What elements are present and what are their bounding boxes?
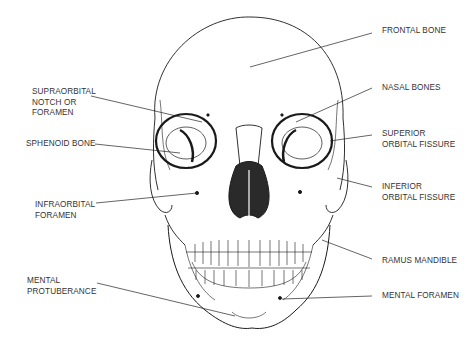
label-supraorbital-notch: SUPRAORBITAL NOTCH OR FORAMEN: [32, 87, 96, 119]
label-frontal-bone: FRONTAL BONE: [382, 26, 446, 37]
label-infraorbital-foramen: INFRAORBITAL FORAMEN: [35, 200, 95, 221]
label-line: ORBITAL FISSURE: [382, 140, 455, 151]
label-line: FORAMEN: [32, 108, 96, 119]
label-line: FRONTAL BONE: [382, 26, 446, 37]
label-line: INFERIOR: [382, 182, 455, 193]
label-inferior-orbital-fissure: INFERIOR ORBITAL FISSURE: [382, 182, 455, 203]
label-line: NASAL BONES: [382, 83, 441, 94]
label-line: FORAMEN: [35, 211, 95, 222]
label-mental-protuberance: MENTAL PROTUBERANCE: [27, 276, 96, 297]
label-mental-foramen: MENTAL FORAMEN: [382, 291, 459, 302]
label-line: PROTUBERANCE: [27, 287, 96, 298]
skull-diagram: SUPRAORBITAL NOTCH OR FORAMEN SPHENOID B…: [0, 0, 472, 350]
label-line: INFRAORBITAL: [35, 200, 95, 211]
label-line: SUPRAORBITAL: [32, 87, 96, 98]
label-sphenoid-bone: SPHENOID BONE: [26, 139, 96, 150]
label-line: RAMUS MANDIBLE: [382, 256, 457, 267]
label-line: SPHENOID BONE: [26, 139, 96, 150]
label-superior-orbital-fissure: SUPERIOR ORBITAL FISSURE: [382, 129, 455, 150]
label-line: NOTCH OR: [32, 98, 96, 109]
label-nasal-bones: NASAL BONES: [382, 83, 441, 94]
leader-lines: [91, 33, 372, 316]
label-line: MENTAL: [27, 276, 96, 287]
label-line: SUPERIOR: [382, 129, 455, 140]
label-ramus-mandible: RAMUS MANDIBLE: [382, 256, 457, 267]
label-line: ORBITAL FISSURE: [382, 193, 455, 204]
label-line: MENTAL FORAMEN: [382, 291, 459, 302]
